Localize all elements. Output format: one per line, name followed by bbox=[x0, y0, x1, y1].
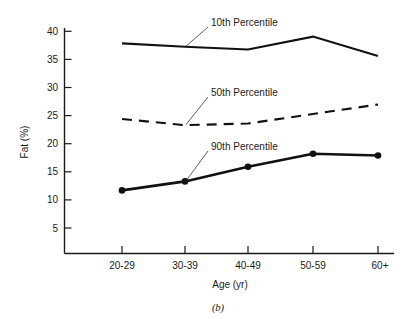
x-tick-label-30-39: 30-39 bbox=[172, 260, 198, 271]
data-point-marker bbox=[310, 151, 317, 158]
y-tick-label-10: 10 bbox=[47, 194, 59, 205]
x-tick-label-50-59: 50-59 bbox=[300, 260, 326, 271]
percentile-body-fat-line-chart: 40 35 30 25 20 15 10 5 20-29 30-39 40-49… bbox=[0, 0, 404, 319]
y-tick-label-40: 40 bbox=[47, 26, 59, 37]
data-point-marker bbox=[375, 152, 382, 159]
figure-container: 40 35 30 25 20 15 10 5 20-29 30-39 40-49… bbox=[0, 0, 404, 319]
annotation-label-50th-percentile: 50th Percentile bbox=[211, 87, 278, 98]
series-markers-90th-percentile bbox=[119, 151, 382, 194]
data-point-marker bbox=[245, 164, 252, 171]
y-tick-label-25: 25 bbox=[47, 110, 59, 121]
annotation-label-90th-percentile: 90th Percentile bbox=[211, 141, 278, 152]
series-line-90th-percentile bbox=[122, 154, 378, 191]
leader-line-10th-percentile bbox=[186, 27, 208, 46]
annotation-10th-percentile: 10th Percentile bbox=[186, 17, 278, 46]
x-tick-label-20-29: 20-29 bbox=[109, 260, 135, 271]
y-tick-label-30: 30 bbox=[47, 82, 59, 93]
panel-label: (b) bbox=[212, 302, 225, 314]
y-tick-label-35: 35 bbox=[47, 54, 59, 65]
data-point-marker bbox=[119, 187, 126, 194]
x-axis-title: Age (yr) bbox=[212, 279, 248, 290]
y-axis-title: Fat (%) bbox=[19, 126, 30, 159]
x-tick-label-60plus: 60+ bbox=[372, 260, 389, 271]
annotation-90th-percentile: 90th Percentile bbox=[186, 141, 278, 181]
annotation-50th-percentile: 50th Percentile bbox=[186, 87, 278, 125]
series-line-10th-percentile bbox=[122, 37, 378, 56]
y-tick-label-20: 20 bbox=[47, 138, 59, 149]
y-tick-group: 40 35 30 25 20 15 10 5 bbox=[47, 26, 72, 234]
x-tick-label-40-49: 40-49 bbox=[235, 260, 261, 271]
annotation-label-10th-percentile: 10th Percentile bbox=[211, 17, 278, 28]
y-tick-label-5: 5 bbox=[52, 223, 58, 234]
series-line-50th-percentile bbox=[122, 105, 378, 126]
y-tick-label-15: 15 bbox=[47, 166, 59, 177]
leader-line-50th-percentile bbox=[186, 97, 208, 125]
x-tick-group: 20-29 30-39 40-49 50-59 60+ bbox=[109, 246, 388, 271]
